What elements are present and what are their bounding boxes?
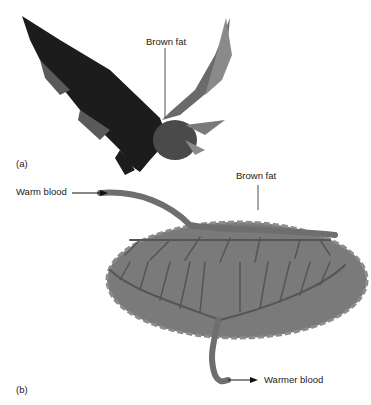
warmer-blood-arrow-icon — [228, 377, 258, 383]
brown-fat-callout-b: Brown fat — [236, 170, 276, 181]
bat-illustration — [22, 16, 232, 175]
warm-blood-label: Warm blood — [16, 186, 67, 197]
warmer-blood-label: Warmer blood — [264, 374, 323, 385]
diagram-canvas — [0, 0, 371, 405]
brown-fat-callout-a: Brown fat — [146, 36, 186, 47]
panel-b-label: (b) — [16, 384, 28, 395]
panel-a-label: (a) — [16, 158, 28, 169]
